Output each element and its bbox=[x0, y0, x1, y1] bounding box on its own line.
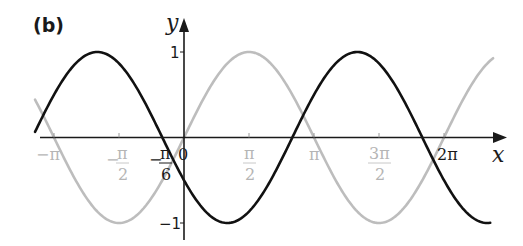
x-tick-label-neg-pi: −π bbox=[36, 145, 60, 164]
y-axis-label: y bbox=[165, 10, 179, 35]
svg-text:π: π bbox=[244, 144, 255, 163]
x-tick-label-pi: π bbox=[309, 145, 320, 164]
y-axis-arrow-icon bbox=[179, 18, 189, 32]
x-tick-label-3pi-half: 3π 2 bbox=[368, 144, 391, 184]
x-tick-label-neg-pi-sixth: − π 6 bbox=[149, 144, 172, 184]
svg-text:π: π bbox=[117, 144, 128, 163]
x-tick-label-zero: 0 bbox=[178, 145, 188, 164]
panel-label: (b) bbox=[33, 14, 64, 36]
svg-text:2: 2 bbox=[245, 165, 255, 184]
x-tick-label-2pi: 2π bbox=[437, 145, 458, 164]
x-tick-label-neg-pi-half: − π 2 bbox=[106, 144, 129, 184]
svg-text:6: 6 bbox=[161, 165, 171, 184]
svg-text:2: 2 bbox=[375, 165, 385, 184]
y-tick-label-1: 1 bbox=[170, 44, 180, 62]
chart: (b) y x 1 −1 −π − π 2 − π 6 0 π bbox=[0, 0, 523, 246]
x-axis-label: x bbox=[492, 142, 505, 167]
svg-text:2: 2 bbox=[118, 165, 128, 184]
x-tick-label-pi-half: π 2 bbox=[243, 144, 256, 184]
svg-text:π: π bbox=[160, 144, 171, 163]
svg-text:3π: 3π bbox=[369, 144, 390, 163]
y-tick-label-neg1: −1 bbox=[159, 215, 181, 233]
